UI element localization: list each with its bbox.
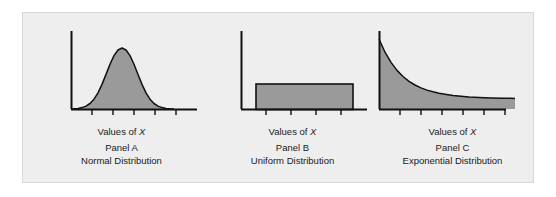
panel-label: Panel A — [36, 141, 207, 154]
normal-distribution-plot — [36, 13, 207, 128]
panel-label: Panel C — [367, 141, 538, 154]
exponential-distribution-plot — [367, 13, 538, 128]
panel-caption: Values of X Panel B Uniform Distribution — [207, 125, 378, 167]
x-axis-title-prefix: Values of — [269, 126, 311, 137]
x-axis-ticks — [266, 110, 341, 115]
panel-exponential-distribution: Values of X Panel C Exponential Distribu… — [367, 13, 538, 184]
x-axis-title: Values of X — [367, 125, 538, 138]
x-axis-ticks — [400, 110, 505, 115]
x-axis-title-prefix: Values of — [98, 126, 140, 137]
x-axis-title-variable: X — [470, 126, 476, 137]
figure-frame: Values of X Panel A Normal Distribution … — [22, 12, 534, 183]
panel-normal-distribution: Values of X Panel A Normal Distribution — [36, 13, 207, 184]
normal-curve-fill — [71, 48, 174, 109]
x-axis-title-prefix: Values of — [429, 126, 471, 137]
x-axis-title-variable: X — [310, 126, 316, 137]
x-axis-ticks — [92, 110, 176, 115]
x-axis-title: Values of X — [36, 125, 207, 138]
uniform-rect-fill — [256, 84, 353, 110]
panel-label: Panel B — [207, 141, 378, 154]
panel-caption: Values of X Panel C Exponential Distribu… — [367, 125, 538, 167]
distribution-label: Exponential Distribution — [367, 154, 538, 167]
uniform-distribution-plot — [207, 13, 378, 128]
x-axis-title: Values of X — [207, 125, 378, 138]
x-axis-title-variable: X — [139, 126, 145, 137]
panel-caption: Values of X Panel A Normal Distribution — [36, 125, 207, 167]
distribution-label: Uniform Distribution — [207, 154, 378, 167]
distribution-label: Normal Distribution — [36, 154, 207, 167]
panel-uniform-distribution: Values of X Panel B Uniform Distribution — [207, 13, 378, 184]
